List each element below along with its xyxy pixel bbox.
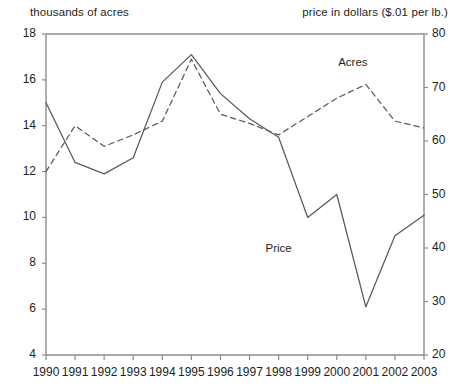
left-tick-16: 16 (14, 72, 36, 86)
axis-lines (46, 34, 424, 355)
left-tick-6: 6 (14, 301, 36, 315)
right-tick-20: 20 (432, 347, 456, 361)
data-series-paths (46, 55, 424, 307)
year-tick-2003: 2003 (407, 365, 441, 379)
plot-area (0, 0, 456, 390)
line-chart-figure: thousands of acres price in dollars ($.0… (0, 0, 456, 390)
axis-ticks (42, 34, 428, 360)
left-tick-10: 10 (14, 209, 36, 223)
left-tick-18: 18 (14, 26, 36, 40)
left-tick-14: 14 (14, 118, 36, 132)
series-line-price (46, 55, 424, 307)
right-tick-40: 40 (432, 240, 456, 254)
series-line-acres (46, 59, 424, 171)
left-tick-8: 8 (14, 255, 36, 269)
series-label-acres: Acres (338, 56, 367, 68)
right-tick-30: 30 (432, 294, 456, 308)
right-tick-60: 60 (432, 133, 456, 147)
series-label-price: Price (266, 242, 292, 254)
left-tick-4: 4 (14, 347, 36, 361)
right-tick-70: 70 (432, 80, 456, 94)
left-tick-12: 12 (14, 164, 36, 178)
right-tick-80: 80 (432, 26, 456, 40)
right-tick-50: 50 (432, 187, 456, 201)
